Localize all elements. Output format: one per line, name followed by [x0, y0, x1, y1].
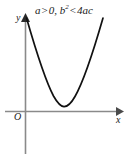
y-axis-label: y: [16, 13, 20, 23]
coordinate-plot: [0, 0, 128, 154]
origin-label: O: [14, 112, 21, 122]
x-axis-label: x: [116, 115, 120, 125]
parabola-curve: [27, 18, 104, 107]
y-axis-arrow-icon: [21, 13, 30, 22]
quadratic-graph-figure: a>0, b2<4ac y x O: [0, 0, 128, 154]
